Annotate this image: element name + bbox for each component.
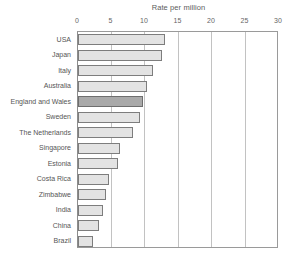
- plot-area: [77, 31, 278, 248]
- gridline: [111, 32, 112, 247]
- category-label: India: [56, 206, 71, 213]
- category-label: Australia: [44, 82, 71, 89]
- category-label: China: [53, 221, 71, 228]
- category-label: Estonia: [48, 159, 71, 166]
- gridline: [178, 32, 179, 247]
- bar: [78, 174, 109, 185]
- bar: [78, 112, 140, 123]
- gridline: [245, 32, 246, 247]
- category-label: England and Wales: [11, 97, 71, 104]
- y-axis-category-labels: USAJapanItalyAustraliaEngland and WalesS…: [0, 31, 74, 248]
- bar: [78, 96, 143, 107]
- bar: [78, 158, 118, 169]
- bar: [78, 220, 99, 231]
- x-tick-label: 15: [174, 17, 182, 24]
- bar: [78, 143, 120, 154]
- x-tick-label: 30: [274, 17, 282, 24]
- category-label: Costa Rica: [37, 175, 71, 182]
- x-tick-label: 25: [241, 17, 249, 24]
- category-label: Singapore: [39, 144, 71, 151]
- x-tick-label: 5: [109, 17, 113, 24]
- bar: [78, 127, 133, 138]
- bar: [78, 50, 162, 61]
- category-label: Sweden: [46, 113, 71, 120]
- bar: [78, 236, 93, 247]
- bar-chart: Rate per million 051015202530 USAJapanIt…: [0, 0, 291, 266]
- x-tick-label: 0: [75, 17, 79, 24]
- bar: [78, 65, 153, 76]
- chart-title: Rate per million: [0, 3, 291, 12]
- category-label: Brazil: [53, 237, 71, 244]
- bar: [78, 189, 106, 200]
- bar: [78, 34, 165, 45]
- x-tick-label: 20: [207, 17, 215, 24]
- category-label: The Netherlands: [19, 128, 71, 135]
- category-label: Japan: [52, 51, 71, 58]
- bar: [78, 205, 103, 216]
- bar: [78, 81, 147, 92]
- category-label: USA: [57, 35, 71, 42]
- x-tick-label: 10: [140, 17, 148, 24]
- x-axis-tick-labels: 051015202530: [0, 17, 291, 28]
- gridline: [211, 32, 212, 247]
- category-label: Italy: [58, 66, 71, 73]
- gridline: [144, 32, 145, 247]
- category-label: Zimbabwe: [39, 190, 71, 197]
